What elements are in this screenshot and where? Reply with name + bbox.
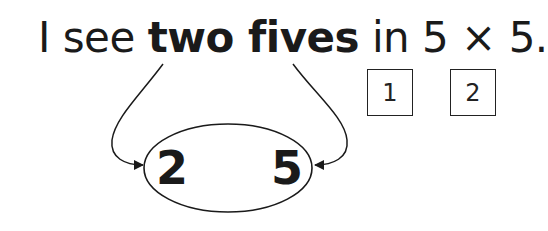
ellipse-left-digit: 2 (156, 145, 188, 191)
ellipse-right-digit: 5 (271, 145, 303, 191)
answer-box-1: 1 (367, 69, 413, 116)
answer-box-2: 2 (450, 69, 496, 116)
answer-box-2-label: 2 (465, 79, 480, 107)
answer-box-1-label: 1 (382, 79, 397, 107)
